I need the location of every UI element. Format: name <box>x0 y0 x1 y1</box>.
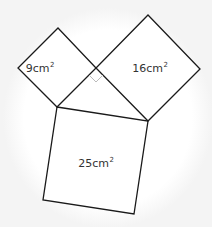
right-angle-marker <box>89 75 103 82</box>
pythagoras-diagram <box>0 0 212 227</box>
label-square-25: 25cm2 <box>78 156 114 170</box>
label-square-16: 16cm2 <box>132 61 168 75</box>
label-square-9: 9cm2 <box>26 61 55 75</box>
